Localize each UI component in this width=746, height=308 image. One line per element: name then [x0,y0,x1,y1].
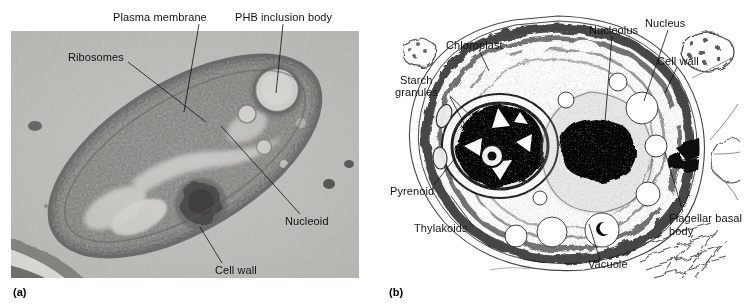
panel-label-b: (b) [389,286,403,298]
micrograph-a-vignette [11,31,359,278]
label-chloroplast: Chloroplast [446,39,503,51]
micrograph-a-image [11,31,359,278]
label-cell-wall-a: Cell wall [215,264,257,276]
label-flagellar-basal-body-line1: Flagellar basal [669,212,742,224]
label-pyrenoid: Pyrenoid [390,185,434,197]
label-plasma-membrane: Plasma membrane [113,11,207,23]
label-starch-granules-line2: granules [395,86,438,98]
label-nucleus: Nucleus [645,17,685,29]
label-starch-granules-line1: Starch [400,74,432,86]
panel-label-a: (a) [13,286,26,298]
label-thylakoids: Thylakoids [414,222,468,234]
panel-b-micrograph [380,8,740,280]
label-cell-wall-b: Cell wall [657,55,699,67]
label-phb-inclusion-body: PHB inclusion body [235,11,332,23]
label-ribosomes: Ribosomes [68,51,124,63]
panel-a-micrograph [11,31,359,278]
label-vacuole: Vacuole [588,258,628,270]
label-flagellar-basal-body-line2: body [669,225,693,237]
label-nucleoid: Nucleoid [285,215,329,227]
algal-cell-render [380,8,740,280]
figure-two-panel-micrographs: Plasma membrane PHB inclusion body Ribos… [0,0,746,308]
label-nucleolus: Nucleolus [589,24,638,36]
